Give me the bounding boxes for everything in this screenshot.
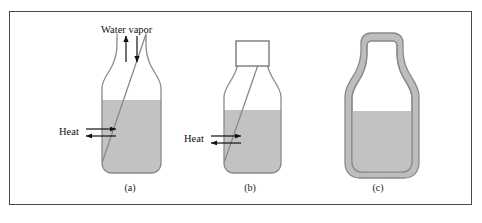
bottle-b-liquid: [218, 110, 288, 180]
bottle-a-liquid: [95, 100, 170, 180]
bottle-a: [86, 34, 170, 180]
bottle-c: [345, 33, 419, 178]
heat-label-a: Heat: [59, 126, 79, 137]
bottle-b-cap: [236, 41, 269, 66]
heat-label-b: Heat: [184, 133, 204, 144]
water-vapor-label: Water vapor: [101, 24, 152, 35]
bottle-b: [211, 41, 288, 180]
figure-container: Water vapor Heat Heat (a) (b) (c): [0, 0, 482, 223]
caption-b: (b): [230, 182, 270, 193]
bottle-c-liquid: [348, 111, 416, 176]
caption-c: (c): [358, 182, 398, 193]
caption-a: (a): [110, 182, 150, 193]
